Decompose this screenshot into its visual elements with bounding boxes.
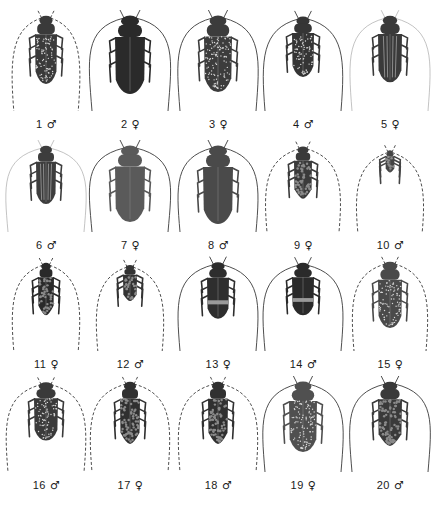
pattern-spot bbox=[44, 434, 45, 435]
pattern-spot bbox=[130, 403, 132, 405]
pattern-spot bbox=[220, 399, 222, 401]
pattern-spot bbox=[309, 416, 310, 417]
female-symbol-icon: ♀ bbox=[308, 479, 317, 492]
pattern-spot bbox=[38, 415, 39, 416]
pattern-spot bbox=[305, 447, 306, 448]
pattern-spot bbox=[36, 422, 37, 423]
beetle-illustration bbox=[347, 0, 434, 509]
pattern-spot bbox=[37, 406, 38, 407]
pattern-spot bbox=[310, 421, 311, 422]
pattern-spot bbox=[216, 439, 218, 441]
pattern-spot bbox=[379, 401, 381, 403]
pattern-spot bbox=[313, 411, 314, 412]
pattern-spot bbox=[50, 434, 51, 435]
pattern-spot bbox=[43, 420, 44, 421]
pattern-spot bbox=[121, 430, 123, 432]
pattern-spot bbox=[137, 420, 139, 422]
pattern-spot bbox=[297, 440, 298, 441]
pattern-spot bbox=[306, 438, 307, 439]
pattern-spot bbox=[294, 408, 295, 409]
pattern-spot bbox=[293, 428, 294, 429]
pattern-spot bbox=[393, 402, 395, 404]
pattern-spot bbox=[305, 417, 306, 418]
pattern-spot bbox=[43, 405, 44, 406]
leg bbox=[28, 417, 34, 437]
pattern-spot bbox=[45, 399, 46, 400]
pattern-spot bbox=[218, 407, 220, 409]
pronotum bbox=[36, 389, 55, 398]
pattern-spot bbox=[123, 419, 125, 421]
pattern-spot bbox=[134, 409, 136, 411]
pattern-spot bbox=[125, 437, 127, 439]
pattern-spot bbox=[299, 400, 300, 401]
specimen-label: 19♀ bbox=[260, 479, 347, 492]
pattern-spot bbox=[53, 405, 54, 406]
pattern-spot bbox=[135, 420, 137, 422]
pattern-spot bbox=[128, 438, 130, 440]
pattern-spot bbox=[120, 404, 122, 406]
pattern-spot bbox=[314, 419, 315, 420]
pattern-spot bbox=[306, 418, 307, 419]
pattern-spot bbox=[390, 429, 392, 431]
pattern-spot bbox=[136, 432, 138, 434]
pattern-spot bbox=[302, 415, 303, 416]
pattern-spot bbox=[394, 416, 396, 418]
pattern-spot bbox=[394, 411, 396, 413]
female-symbol-icon: ♀ bbox=[135, 479, 144, 492]
pattern-spot bbox=[222, 429, 224, 431]
pattern-spot bbox=[386, 437, 388, 439]
pattern-spot bbox=[121, 422, 123, 424]
pronotum bbox=[292, 390, 314, 401]
pattern-spot bbox=[397, 425, 399, 427]
pattern-spot bbox=[215, 419, 217, 421]
pattern-spot bbox=[294, 402, 295, 403]
pattern-spot bbox=[126, 428, 128, 430]
pattern-spot bbox=[42, 419, 43, 420]
pattern-spot bbox=[120, 399, 122, 401]
pattern-spot bbox=[45, 406, 46, 407]
pattern-spot bbox=[56, 408, 57, 409]
pattern-spot bbox=[46, 428, 47, 429]
pattern-spot bbox=[125, 399, 127, 401]
pattern-spot bbox=[211, 411, 213, 413]
leg bbox=[284, 413, 290, 430]
pattern-spot bbox=[48, 422, 49, 423]
pattern-spot bbox=[380, 429, 382, 431]
pattern-spot bbox=[315, 424, 316, 425]
pattern-spot bbox=[306, 441, 307, 442]
pattern-spot bbox=[42, 422, 43, 423]
pattern-spot bbox=[212, 424, 214, 426]
pattern-spot bbox=[42, 434, 43, 435]
pattern-spot bbox=[390, 436, 392, 438]
pattern-spot bbox=[308, 412, 309, 413]
pattern-spot bbox=[50, 401, 51, 402]
pattern-spot bbox=[47, 415, 48, 416]
pattern-spot bbox=[132, 415, 134, 417]
pattern-spot bbox=[46, 398, 47, 399]
pattern-spot bbox=[382, 433, 384, 435]
pattern-spot bbox=[299, 413, 300, 414]
leg bbox=[228, 419, 234, 439]
pattern-spot bbox=[389, 400, 391, 402]
pattern-spot bbox=[132, 423, 134, 425]
pattern-spot bbox=[131, 408, 133, 410]
pattern-spot bbox=[301, 427, 302, 428]
pattern-spot bbox=[132, 426, 134, 428]
pattern-spot bbox=[222, 421, 224, 423]
pattern-spot bbox=[387, 410, 389, 412]
pattern-spot bbox=[43, 413, 44, 414]
specimen-number: 16 bbox=[33, 479, 46, 491]
pattern-spot bbox=[120, 407, 122, 409]
pattern-spot bbox=[42, 413, 43, 414]
pattern-spot bbox=[49, 399, 50, 400]
pattern-spot bbox=[308, 443, 309, 444]
beetle-illustration bbox=[3, 0, 90, 509]
pronotum bbox=[210, 389, 226, 399]
pattern-spot bbox=[300, 441, 301, 442]
pattern-spot bbox=[311, 423, 312, 424]
pattern-spot bbox=[389, 440, 391, 442]
pattern-spot bbox=[46, 409, 47, 410]
pattern-spot bbox=[384, 424, 386, 426]
pattern-spot bbox=[294, 422, 295, 423]
leg bbox=[284, 423, 290, 443]
